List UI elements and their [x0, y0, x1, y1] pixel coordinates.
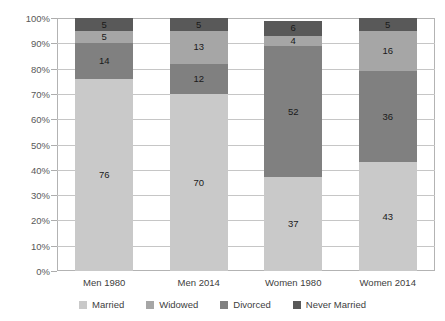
bar-segment-value: 5: [102, 20, 107, 30]
y-axis-tick-mark: [51, 69, 57, 70]
y-axis-tick-label: 0%: [4, 266, 50, 277]
legend-swatch-icon: [293, 301, 301, 309]
bar-stack: 7012135: [170, 18, 228, 271]
legend-item[interactable]: Married: [79, 299, 124, 310]
bar-segment[interactable]: 14: [75, 43, 133, 78]
bar-segment[interactable]: 6: [264, 21, 322, 36]
bar-segment[interactable]: 4: [264, 36, 322, 46]
legend-swatch-icon: [79, 301, 87, 309]
y-axis-tick-label: 30%: [4, 190, 50, 201]
y-axis-tick-label: 70%: [4, 88, 50, 99]
chart-legend: MarriedWidowedDivorcedNever Married: [0, 299, 445, 310]
bar-segment-value: 76: [99, 170, 110, 180]
legend-item[interactable]: Divorced: [220, 299, 271, 310]
bar-group[interactable]: 4336165: [359, 18, 417, 271]
bar-segment[interactable]: 5: [359, 18, 417, 31]
y-axis-tick-mark: [51, 220, 57, 221]
bar-segment-value: 36: [382, 112, 393, 122]
y-axis-tick-mark: [51, 94, 57, 95]
bar-segment-value: 43: [382, 212, 393, 222]
bar-segment-value: 5: [196, 20, 201, 30]
x-axis-label: Women 2014: [360, 277, 416, 288]
bar-segment[interactable]: 5: [170, 18, 228, 31]
bar-group[interactable]: 761455: [75, 18, 133, 271]
bars-layer: 76145570121353752464336165: [57, 18, 435, 271]
x-axis-label: Men 1980: [83, 277, 125, 288]
bar-segment-value: 70: [193, 178, 204, 188]
legend-item[interactable]: Widowed: [146, 299, 198, 310]
bar-segment-value: 4: [291, 36, 296, 46]
y-axis-tick-mark: [51, 43, 57, 44]
y-axis-tick-label: 60%: [4, 114, 50, 125]
legend-label: Divorced: [233, 299, 271, 310]
y-axis-tick-label: 20%: [4, 215, 50, 226]
bar-segment[interactable]: 37: [264, 177, 322, 271]
legend-label: Never Married: [306, 299, 366, 310]
plot-area: 76145570121353752464336165: [57, 18, 435, 271]
bar-segment[interactable]: 5: [75, 18, 133, 31]
bar-segment[interactable]: 76: [75, 79, 133, 271]
legend-label: Married: [92, 299, 124, 310]
x-axis-label: Women 1980: [265, 277, 321, 288]
y-axis-tick-mark: [51, 271, 57, 272]
bar-segment-value: 12: [193, 74, 204, 84]
y-axis-tick-mark: [51, 246, 57, 247]
bar-stack: 4336165: [359, 18, 417, 271]
y-axis-tick-mark: [51, 195, 57, 196]
y-axis-tick-label: 50%: [4, 139, 50, 150]
bar-segment[interactable]: 43: [359, 162, 417, 271]
bar-segment[interactable]: 16: [359, 31, 417, 71]
bar-segment-value: 14: [99, 56, 110, 66]
bar-segment-value: 5: [102, 32, 107, 42]
bar-segment[interactable]: 52: [264, 46, 322, 178]
y-axis-tick-mark: [51, 170, 57, 171]
bar-segment[interactable]: 12: [170, 64, 228, 94]
bar-group[interactable]: 7012135: [170, 18, 228, 271]
bar-stack: 375246: [264, 18, 322, 271]
bar-group[interactable]: 375246: [264, 18, 322, 271]
y-axis-tick-label: 80%: [4, 63, 50, 74]
bar-segment-value: 6: [291, 23, 296, 33]
legend-swatch-icon: [146, 301, 154, 309]
bar-segment[interactable]: 13: [170, 31, 228, 64]
y-axis-tick-label: 90%: [4, 38, 50, 49]
bar-segment-value: 37: [288, 219, 299, 229]
y-axis-tick-label: 100%: [4, 13, 50, 24]
legend-swatch-icon: [220, 301, 228, 309]
bar-segment[interactable]: 70: [170, 94, 228, 271]
x-axis-label: Men 2014: [178, 277, 220, 288]
y-axis-tick-mark: [51, 18, 57, 19]
bar-segment[interactable]: 5: [75, 31, 133, 44]
y-axis-tick-mark: [51, 145, 57, 146]
y-axis-tick-mark: [51, 119, 57, 120]
legend-item[interactable]: Never Married: [293, 299, 366, 310]
bar-segment-value: 5: [385, 20, 390, 30]
legend-label: Widowed: [159, 299, 198, 310]
y-axis-tick-label: 40%: [4, 164, 50, 175]
y-axis-tick-label: 10%: [4, 240, 50, 251]
bar-stack: 761455: [75, 18, 133, 271]
bar-segment-value: 52: [288, 107, 299, 117]
bar-segment[interactable]: 36: [359, 71, 417, 162]
stacked-bar-chart: 76145570121353752464336165 0%10%20%30%40…: [0, 0, 445, 321]
bar-segment-value: 16: [382, 46, 393, 56]
bar-segment-value: 13: [193, 42, 204, 52]
